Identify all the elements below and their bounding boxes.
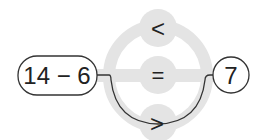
result-text: 7 — [224, 62, 237, 89]
comparison-diagram: 14 − 6 7 < = > — [0, 0, 267, 140]
expression-text: 14 − 6 — [23, 62, 90, 89]
equals-symbol: = — [152, 63, 165, 88]
greater-than-symbol: > — [150, 110, 164, 137]
less-than-symbol: < — [151, 15, 165, 42]
